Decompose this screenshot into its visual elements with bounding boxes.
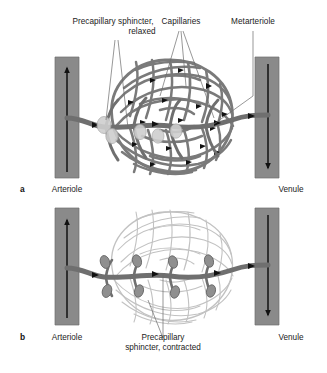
label-metarteriole: Metarteriole <box>231 17 275 26</box>
label-capillaries: Capillaries <box>162 17 201 26</box>
capillary-bed-figure: Precapillary sphincter,relaxed Capillari… <box>0 0 327 373</box>
label-arteriole-b: Arteriole <box>52 333 83 342</box>
label-venule-a: Venule <box>278 185 303 194</box>
panel-letter-b: b <box>20 332 25 342</box>
label-venule-b: Venule <box>278 333 303 342</box>
label-arteriole-a: Arteriole <box>52 185 83 194</box>
panel-letter-a: a <box>20 184 25 194</box>
